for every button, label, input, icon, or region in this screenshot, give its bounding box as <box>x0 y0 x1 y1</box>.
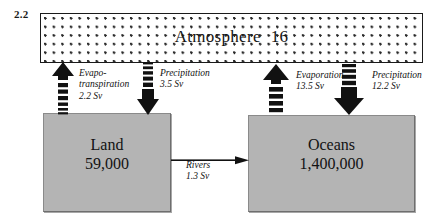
evapotranspiration-value: 2.2 Sv <box>79 91 129 102</box>
oceans-name: Oceans <box>248 136 415 154</box>
rivers-value: 1.3 Sv <box>186 171 210 182</box>
flux-label-evapotranspiration: Evapo- transpiration 2.2 Sv <box>79 68 129 102</box>
precipitation-land-name: Precipitation <box>160 68 210 79</box>
flux-label-precipitation-ocean: Precipitation 12.2 Sv <box>372 70 422 93</box>
flux-label-rivers: Rivers 1.3 Sv <box>186 160 210 183</box>
atmosphere-name: Atmosphere <box>175 27 261 46</box>
land-amount: 59,000 <box>43 155 171 173</box>
arrow-precipitation-ocean-down-icon <box>334 64 364 116</box>
evapotranspiration-name-line1: Evapo- <box>79 68 129 79</box>
land-name: Land <box>43 136 171 154</box>
atmosphere-label-group: Atmosphere16 <box>41 27 422 47</box>
precipitation-ocean-name: Precipitation <box>372 70 422 81</box>
reservoir-atmosphere: Atmosphere16 <box>40 13 423 63</box>
evapotranspiration-name-line2: transpiration <box>79 79 129 90</box>
precipitation-ocean-value: 12.2 Sv <box>372 81 422 92</box>
flux-label-precipitation-land: Precipitation 3.5 Sv <box>160 68 210 91</box>
land-label-group: Land 59,000 <box>43 136 171 173</box>
rivers-name: Rivers <box>186 160 210 171</box>
hydrological-cycle-diagram: 2.2 Atmosphere16 Land 59,000 Oceans 1,40… <box>0 0 440 224</box>
arrow-evaporation-ocean-up-icon <box>262 64 290 115</box>
arrow-evapotranspiration-up-icon <box>51 62 75 115</box>
figure-corner-label: 2.2 <box>14 8 28 20</box>
atmosphere-amount: 16 <box>271 27 289 46</box>
arrow-precipitation-land-down-icon <box>137 62 159 116</box>
oceans-label-group: Oceans 1,400,000 <box>248 136 415 173</box>
precipitation-land-value: 3.5 Sv <box>160 79 210 90</box>
oceans-amount: 1,400,000 <box>248 155 415 173</box>
